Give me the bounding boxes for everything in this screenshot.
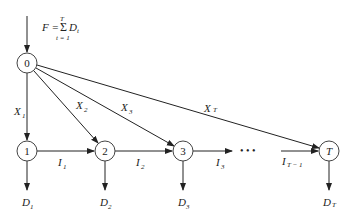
svg-text:2: 2 (84, 106, 88, 114)
svg-text:3: 3 (185, 203, 190, 211)
node-3: 3 (173, 141, 193, 161)
svg-text:D: D (21, 196, 30, 208)
svg-text:2: 2 (141, 163, 145, 171)
node-0: 0 (17, 53, 37, 73)
node-2: 2 (95, 141, 115, 161)
total-demand-formula: F = Σ D t T t = 1 (41, 15, 80, 42)
edge-x2 (34, 71, 98, 143)
svg-text:2: 2 (102, 145, 108, 157)
svg-text:X: X (203, 102, 212, 114)
node-1: 1 (17, 141, 37, 161)
supply-edges (27, 65, 319, 148)
svg-text:T − 1: T − 1 (287, 161, 303, 169)
demand-labels: D 1 D 2 D 3 D T (21, 196, 337, 211)
svg-text:D: D (99, 196, 108, 208)
svg-text:1: 1 (22, 112, 26, 120)
svg-text:T: T (332, 201, 337, 209)
svg-text:D: D (68, 21, 77, 33)
svg-text:1: 1 (24, 145, 30, 157)
svg-text:3: 3 (220, 163, 225, 171)
network-flow-diagram: F = Σ D t T t = 1 X 1 X 2 X 3 X T • • • … (0, 0, 353, 223)
svg-text:X: X (75, 99, 84, 111)
svg-text:D: D (177, 196, 186, 208)
svg-text:T: T (213, 106, 218, 114)
svg-text:T: T (326, 145, 333, 157)
svg-text:2: 2 (108, 203, 112, 211)
edge-x3 (36, 68, 174, 146)
svg-text:D: D (322, 196, 331, 208)
svg-text:t: t (77, 27, 80, 35)
svg-text:X: X (120, 101, 129, 113)
svg-text:1: 1 (30, 203, 34, 211)
svg-text:X: X (13, 105, 22, 117)
svg-text:3: 3 (128, 108, 133, 116)
svg-text:F =: F = (41, 21, 59, 33)
ellipsis: • • • (240, 145, 256, 156)
svg-text:3: 3 (180, 145, 186, 157)
svg-text:t = 1: t = 1 (56, 34, 70, 42)
svg-text:0: 0 (24, 57, 30, 69)
node-T: T (319, 141, 339, 161)
svg-text:1: 1 (63, 163, 67, 171)
